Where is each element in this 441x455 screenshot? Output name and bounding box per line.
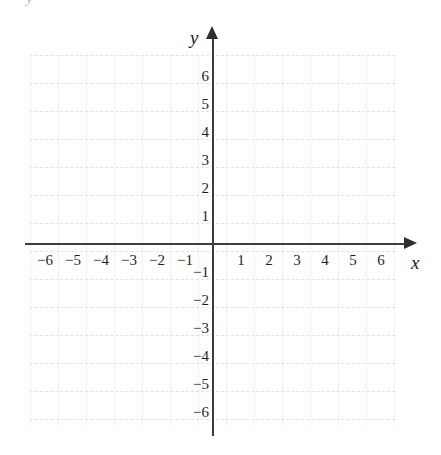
y-tick-label: −1 xyxy=(193,265,209,280)
gridline-vertical xyxy=(114,55,115,425)
y-tick-label: 6 xyxy=(202,69,210,84)
gridline-vertical xyxy=(58,55,59,425)
gridline-vertical xyxy=(226,55,227,425)
x-tick-label: −5 xyxy=(65,253,81,268)
x-tick-label: 4 xyxy=(321,253,329,268)
y-tick-label: −4 xyxy=(193,349,209,364)
x-tick-label: −3 xyxy=(121,253,137,268)
gridline-vertical xyxy=(394,55,395,425)
gridline-vertical xyxy=(366,55,367,425)
x-axis-arrow-icon xyxy=(404,237,417,249)
y-tick-label: 4 xyxy=(202,125,210,140)
x-tick-label: 2 xyxy=(265,253,273,268)
y-tick-label: 2 xyxy=(202,181,210,196)
x-tick-label: 3 xyxy=(293,253,301,268)
gridline-vertical xyxy=(86,55,87,425)
y-tick-label: −6 xyxy=(193,405,209,420)
x-tick-label: 6 xyxy=(377,253,385,268)
y-tick-label: −3 xyxy=(193,321,209,336)
gridline-vertical xyxy=(30,55,31,425)
y-tick-label: −2 xyxy=(193,293,209,308)
clipped-glyph-artifact: y xyxy=(26,0,33,6)
x-tick-label: −6 xyxy=(37,253,53,268)
y-axis-arrow-icon xyxy=(206,26,218,39)
x-tick-label: 5 xyxy=(349,253,357,268)
x-axis-line xyxy=(25,243,407,245)
gridline-vertical xyxy=(282,55,283,425)
y-tick-label: 3 xyxy=(202,153,210,168)
gridline-vertical xyxy=(198,55,199,425)
y-tick-label: 1 xyxy=(202,209,210,224)
y-axis-line xyxy=(212,36,214,436)
gridline-vertical xyxy=(142,55,143,425)
x-axis-label: x xyxy=(411,253,419,272)
y-tick-label: −5 xyxy=(193,377,209,392)
x-tick-label: −1 xyxy=(177,253,193,268)
gridline-vertical xyxy=(254,55,255,425)
gridline-vertical xyxy=(338,55,339,425)
x-tick-label: 1 xyxy=(237,253,245,268)
graph-canvas: y y x 654321−1−2−3−4−5−6−6−5−4−3−2−11234… xyxy=(0,0,441,455)
x-tick-label: −4 xyxy=(93,253,109,268)
y-axis-label: y xyxy=(190,28,198,47)
x-tick-label: −2 xyxy=(149,253,165,268)
y-tick-label: 5 xyxy=(202,97,210,112)
gridline-vertical xyxy=(170,55,171,425)
gridline-vertical xyxy=(310,55,311,425)
